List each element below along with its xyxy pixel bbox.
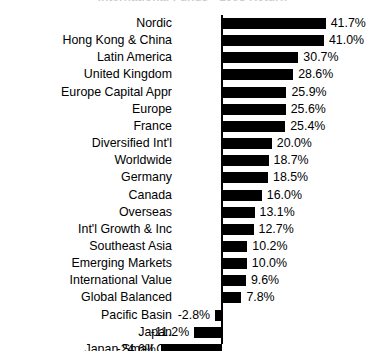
category-label: Worldwide	[0, 153, 172, 170]
bar-chart: International Funds - 1998 Return Nordic…	[0, 0, 385, 351]
bar-row: United Kingdom28.6%	[0, 67, 385, 84]
value-label: 10.2%	[252, 239, 287, 256]
bar	[222, 172, 268, 183]
bar-row: Global Balanced7.8%	[0, 290, 385, 307]
category-label: Southeast Asia	[0, 239, 172, 256]
category-label: Emerging Markets	[0, 256, 172, 273]
bar-row: International Value9.6%	[0, 273, 385, 290]
value-label: 41.0%	[329, 33, 364, 50]
category-label: Overseas	[0, 205, 172, 222]
bar	[222, 155, 269, 166]
category-label: Diversified Int'l	[0, 136, 172, 153]
bar	[215, 310, 222, 321]
bar	[222, 292, 241, 303]
value-label: 10.0%	[252, 256, 287, 273]
value-label: 9.6%	[251, 273, 279, 290]
bar	[222, 69, 293, 80]
category-label: France	[0, 119, 172, 136]
bar-row: Southeast Asia10.2%	[0, 239, 385, 256]
plot-area: Nordic41.7%Hong Kong & China41.0%Latin A…	[0, 0, 385, 351]
bar	[161, 344, 222, 351]
value-label: 30.7%	[303, 50, 338, 67]
value-label: -11.2%	[151, 325, 189, 342]
category-label: Japan	[0, 325, 172, 342]
value-label: 12.7%	[259, 222, 294, 239]
value-label: 28.6%	[298, 67, 333, 84]
category-label: International Value	[0, 273, 172, 290]
value-label: -2.8%	[178, 308, 210, 325]
bar-row: Overseas13.1%	[0, 205, 385, 222]
value-label: 25.6%	[291, 102, 326, 119]
bar-row: Int'l Growth & Inc12.7%	[0, 222, 385, 239]
value-label: 41.7%	[331, 16, 366, 33]
category-label: Latin America	[0, 50, 172, 67]
bar	[222, 121, 285, 132]
value-label: 13.1%	[260, 205, 295, 222]
bar-row: Japan Small Co-24.6%	[0, 342, 385, 351]
category-label: Europe Capital Appr	[0, 85, 172, 102]
bar	[222, 138, 272, 149]
bar-row: Europe Capital Appr25.9%	[0, 85, 385, 102]
value-label: -24.6%	[117, 342, 156, 351]
bar	[222, 104, 286, 115]
bar	[222, 52, 298, 63]
bar	[222, 18, 326, 29]
bar	[222, 87, 286, 98]
bar-row: Emerging Markets10.0%	[0, 256, 385, 273]
bar-row: Pacific Basin-2.8%	[0, 308, 385, 325]
category-label: Int'l Growth & Inc	[0, 222, 172, 239]
bar	[222, 207, 255, 218]
bar	[222, 275, 246, 286]
category-label: Europe	[0, 102, 172, 119]
value-label: 25.4%	[290, 119, 325, 136]
bar-row: Hong Kong & China41.0%	[0, 33, 385, 50]
bar	[222, 241, 247, 252]
category-label: Pacific Basin	[0, 308, 172, 325]
bar-row: France25.4%	[0, 119, 385, 136]
category-label: Nordic	[0, 16, 172, 33]
category-label: Global Balanced	[0, 290, 172, 307]
bar	[222, 190, 262, 201]
bar-row: Nordic41.7%	[0, 16, 385, 33]
bar-row: Germany18.5%	[0, 170, 385, 187]
bar-row: Canada16.0%	[0, 188, 385, 205]
bar	[222, 35, 324, 46]
bar	[222, 258, 247, 269]
value-label: 25.9%	[291, 85, 326, 102]
category-label: Germany	[0, 170, 172, 187]
bar	[194, 327, 222, 338]
category-label: Hong Kong & China	[0, 33, 172, 50]
value-label: 18.7%	[274, 153, 309, 170]
bar-row: Latin America30.7%	[0, 50, 385, 67]
bar-row: Japan-11.2%	[0, 325, 385, 342]
bar	[222, 224, 254, 235]
category-label: United Kingdom	[0, 67, 172, 84]
value-label: 16.0%	[267, 188, 302, 205]
bar-row: Diversified Int'l20.0%	[0, 136, 385, 153]
bar-row: Worldwide18.7%	[0, 153, 385, 170]
category-label: Canada	[0, 188, 172, 205]
value-label: 20.0%	[277, 136, 312, 153]
value-label: 18.5%	[273, 170, 308, 187]
bar-row: Europe25.6%	[0, 102, 385, 119]
value-label: 7.8%	[246, 290, 274, 307]
